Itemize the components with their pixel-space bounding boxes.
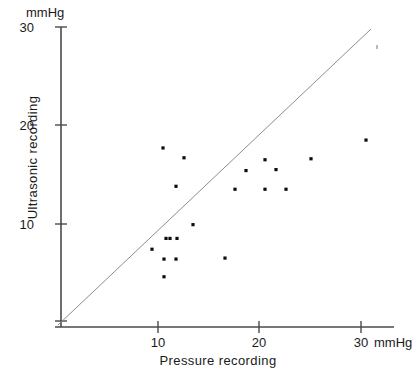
identity-reference-line xyxy=(58,29,371,325)
data-point xyxy=(162,275,165,278)
data-point xyxy=(309,157,312,160)
data-point xyxy=(244,169,247,172)
data-point xyxy=(364,138,367,141)
data-point xyxy=(174,257,177,260)
data-point xyxy=(284,188,287,191)
data-point xyxy=(233,188,236,191)
data-point xyxy=(168,237,171,240)
data-point xyxy=(191,223,194,226)
plot-canvas xyxy=(0,0,420,373)
scatter-plot-figure: mmHg mmHg 30 20 10 10 20 30 Ultrasonic r… xyxy=(0,0,420,373)
data-point xyxy=(263,188,266,191)
data-point xyxy=(263,158,266,161)
axes-group xyxy=(55,27,394,333)
data-point xyxy=(274,168,277,171)
data-point xyxy=(161,146,164,149)
data-point xyxy=(175,237,178,240)
data-point xyxy=(223,256,226,259)
data-point xyxy=(150,248,153,251)
data-point xyxy=(164,237,167,240)
data-points-group xyxy=(150,138,367,278)
data-point xyxy=(182,156,185,159)
data-point xyxy=(174,185,177,188)
stray-speck-mark xyxy=(376,45,378,49)
data-point xyxy=(162,257,165,260)
